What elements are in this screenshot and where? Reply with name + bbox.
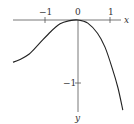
x-tick-label-neg1: −1 [39,7,52,17]
y-axis-label: y [74,113,81,123]
y-tick-label-neg1: −1 [63,78,76,88]
x-tick-label-1: 1 [108,7,114,17]
x-tick-label-0: 0 [75,7,81,17]
function-curve [13,20,123,110]
plot-canvas: −1 0 1 x −1 y [0,0,134,124]
x-axis-label: x [124,15,129,25]
